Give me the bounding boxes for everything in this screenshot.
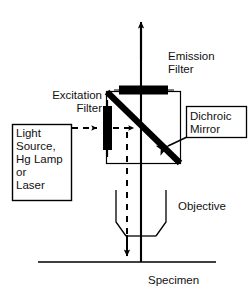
objective-label: Objective (178, 200, 250, 213)
objective-lens-right (156, 190, 166, 236)
excitation-filter-label: Excitation Filter (32, 89, 102, 115)
light-source-label: Light Source, Hg Lamp or Laser (16, 127, 72, 192)
dichroic-mirror-leader (168, 137, 187, 146)
dichroic-mirror-label: Dichroic Mirror (190, 110, 250, 136)
fluorescence-microscope-diagram: Light Source, Hg Lamp or Laser Excitatio… (0, 0, 252, 299)
specimen-label: Specimen (148, 274, 228, 287)
emission-filter-label: Emission Filter (168, 50, 248, 76)
objective-lens-left (116, 190, 126, 236)
